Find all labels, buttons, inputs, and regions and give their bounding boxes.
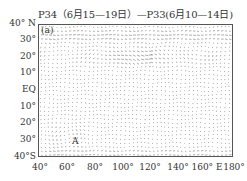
y-tick-40n: 40° N <box>0 18 36 28</box>
x-tick-160e: 160° E <box>191 162 222 172</box>
x-tick-140: 140° <box>167 162 189 172</box>
anticyclone-label-a: A <box>72 136 79 146</box>
wind-vector-field <box>38 24 233 157</box>
y-tick-20s: 20° <box>0 117 36 127</box>
y-tick-eq: EQ <box>0 84 36 94</box>
y-tick-40s: 40°S <box>0 151 36 161</box>
chart-title: P34（6月15—19日）—P33(6月10—14日) <box>38 6 233 21</box>
x-tick-60: 60° <box>59 162 75 172</box>
x-tick-120: 120° <box>139 162 161 172</box>
y-tick-10s: 10° <box>0 101 36 111</box>
panel-label: (a) <box>41 25 53 35</box>
y-tick-10n: 10° <box>0 67 36 77</box>
y-tick-30n: 30° <box>0 34 36 44</box>
y-tick-20n: 20° <box>0 51 36 61</box>
x-tick-40: 40° <box>32 162 48 172</box>
x-tick-180: 180° <box>223 162 245 172</box>
y-tick-30s: 30° <box>0 134 36 144</box>
x-tick-80: 80° <box>87 162 103 172</box>
x-tick-100: 100° <box>112 162 134 172</box>
